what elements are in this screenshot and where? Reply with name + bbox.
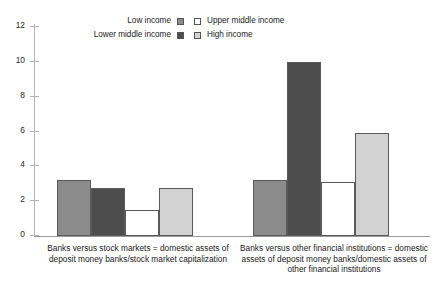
y-axis-tick: 8 (30, 96, 39, 97)
y-axis-tick: 2 (30, 200, 39, 201)
bar-high-income (159, 188, 193, 236)
y-axis-tick-label: 6 (20, 125, 25, 136)
bar-high-income (355, 133, 389, 236)
bar-chart-figure: Low income Lower middle income Upper mid… (0, 0, 438, 300)
caption-group-two: Banks versus other financial institution… (232, 243, 436, 275)
legend-swatch-low-income (177, 18, 184, 25)
bar-lower-middle-income (91, 188, 125, 236)
y-axis-tick: 4 (30, 165, 39, 166)
bar-upper-middle-income (321, 182, 355, 236)
x-axis-baseline (34, 236, 430, 237)
legend-swatch-upper-middle-income (194, 18, 201, 25)
legend-label-upper-middle-income: Upper middle income (207, 17, 284, 25)
caption-group-one: Banks versus stock markets = domestic as… (38, 243, 238, 264)
y-axis-tick-label: 10 (16, 55, 25, 66)
y-axis-tick: 10 (30, 61, 39, 62)
legend-item-upper-middle-income: Upper middle income (194, 14, 344, 28)
bar-upper-middle-income (125, 210, 159, 236)
y-axis-tick-label: 2 (20, 194, 25, 205)
legend-label-low-income: Low income (127, 17, 171, 25)
bar-lower-middle-income (287, 62, 321, 236)
y-axis-tick: 12 (30, 26, 39, 27)
y-axis-tick: 0 (30, 235, 39, 236)
y-axis-tick: 6 (30, 131, 39, 132)
bar-low-income (57, 180, 91, 236)
bar-low-income (253, 180, 287, 236)
y-axis-tick-label: 12 (16, 20, 25, 31)
legend-item-low-income: Low income (46, 14, 184, 28)
y-axis-tick-label: 4 (20, 159, 25, 170)
plot-area: 121086420 (34, 27, 430, 236)
y-axis-tick-label: 0 (20, 229, 25, 240)
y-axis-tick-label: 8 (20, 90, 25, 101)
